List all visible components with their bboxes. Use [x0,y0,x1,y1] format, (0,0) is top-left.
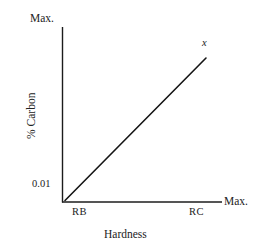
carbon-hardness-chart: Max. 0.01 Max. RB RC Hardness % Carbon x [0,0,260,248]
x-axis-tick-label-rb: RB [72,207,87,218]
trend-line-endpoint-label: x [202,38,207,49]
chart-canvas [0,0,260,248]
x-axis-max-label: Max. [224,196,248,208]
y-axis-min-label: 0.01 [32,179,50,190]
x-axis-title: Hardness [104,229,147,241]
x-axis-tick-label-rc: RC [189,207,204,218]
trend-line [65,58,206,201]
y-axis-max-label: Max. [30,13,54,25]
y-axis-title: % Carbon [26,76,38,156]
